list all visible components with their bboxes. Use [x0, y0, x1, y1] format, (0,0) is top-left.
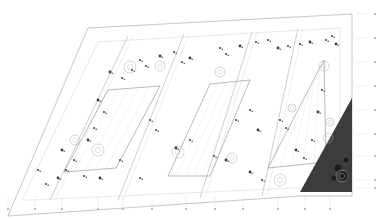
grid-tick-marker [374, 187, 376, 189]
shrub-icon [237, 120, 239, 122]
grid-tick-marker [374, 133, 376, 135]
shrub-icon [191, 58, 193, 60]
shrub-icon [323, 90, 325, 92]
shrub-icon [287, 128, 289, 130]
planter-inner-icon [326, 136, 331, 141]
shrub-icon [177, 148, 179, 150]
planter-inner-icon [277, 177, 282, 182]
tree-icon [83, 175, 85, 177]
shrub-icon [279, 48, 281, 50]
tree-icon [225, 53, 227, 55]
tree-icon [139, 59, 141, 61]
planter-inner-icon [158, 64, 163, 69]
tree-icon [159, 55, 162, 58]
tree-icon [309, 41, 312, 44]
courtyard [64, 86, 160, 172]
tree-icon [181, 61, 183, 63]
shrub-icon [141, 60, 143, 62]
tree-icon [317, 111, 320, 114]
courtyard-grid-line [280, 97, 305, 167]
grid-tick-marker [61, 208, 63, 210]
shrub-icon [147, 66, 149, 68]
shrub-icon [101, 178, 103, 180]
grid-tick-marker [34, 208, 36, 210]
tree-icon [213, 155, 215, 157]
tree-icon [261, 179, 263, 181]
courtyard-grid-line [314, 69, 319, 163]
tree-icon [87, 139, 90, 142]
shrub-icon [151, 120, 153, 122]
tree-icon [257, 129, 260, 132]
strip-divider [118, 34, 184, 200]
courtyard-grid-line [85, 88, 129, 170]
grid-tick-marker [329, 208, 331, 210]
grid-tick-marker [374, 37, 376, 39]
tree-icon [155, 129, 157, 131]
tree-icon [235, 119, 237, 121]
tree-icon [145, 65, 147, 67]
shrub-icon [333, 36, 335, 38]
shrub-icon [75, 160, 77, 162]
planter-inner-icon [218, 70, 223, 75]
shrub-icon [305, 158, 307, 160]
tree-icon [279, 119, 281, 121]
planter-circle-icon [274, 174, 286, 186]
shrub-icon [311, 42, 313, 44]
grid-tick-marker [304, 208, 306, 210]
shrub-icon [301, 44, 303, 46]
shrub-icon [257, 42, 259, 44]
tree-icon [45, 183, 47, 185]
strip-divider [200, 32, 252, 198]
shrub-icon [259, 130, 261, 132]
shrub-icon [111, 72, 113, 74]
tree-icon [239, 45, 242, 48]
grid-tick-marker [374, 85, 376, 87]
tree-icon [277, 47, 280, 50]
tree-icon [139, 177, 141, 179]
tree-icon [295, 149, 298, 152]
hatched-corner [300, 98, 352, 192]
tree-icon [249, 171, 252, 174]
tree-icon [65, 169, 67, 171]
planter-inner-icon [127, 64, 132, 69]
tree-icon [189, 139, 191, 141]
grid-tick-marker [374, 155, 376, 157]
tree-cluster-icon [334, 164, 342, 172]
shrub-icon [269, 40, 271, 42]
courtyard-grid-line [185, 82, 226, 176]
shrub-icon [121, 160, 123, 162]
tree-icon [303, 157, 305, 159]
grid-tick-marker [151, 208, 153, 210]
tree-icon [335, 43, 338, 46]
courtyard [268, 60, 326, 168]
tree-icon [173, 51, 175, 53]
shrub-icon [191, 140, 193, 142]
shrub-icon [95, 128, 97, 130]
tree-icon [311, 139, 313, 141]
tree-cluster-icon [339, 171, 349, 181]
shrub-icon [47, 184, 49, 186]
tree-icon [331, 35, 333, 37]
tree-icon [109, 71, 112, 74]
planter-circle-icon [215, 67, 225, 77]
grid-tick-marker [374, 13, 376, 15]
tree-icon [97, 99, 100, 102]
strip-divider-offset [55, 36, 133, 200]
planter-inner-icon [73, 138, 78, 143]
shrub-icon [337, 44, 339, 46]
tree-icon [189, 57, 192, 60]
courtyard-grid-line [74, 89, 118, 171]
grid-tick-marker [374, 61, 376, 63]
planter-circle-icon [155, 61, 165, 71]
shrub-icon [251, 172, 253, 174]
shrub-icon [59, 178, 61, 180]
grid-tick-marker [277, 208, 279, 210]
shrub-icon [227, 160, 229, 162]
shrub-icon [327, 40, 329, 42]
shrub-icon [227, 54, 229, 56]
tree-icon [119, 159, 121, 161]
shrub-icon [63, 150, 65, 152]
tree-symbols [37, 35, 339, 186]
courtyard-grid-line [95, 88, 139, 170]
shrub-icon [161, 56, 163, 58]
